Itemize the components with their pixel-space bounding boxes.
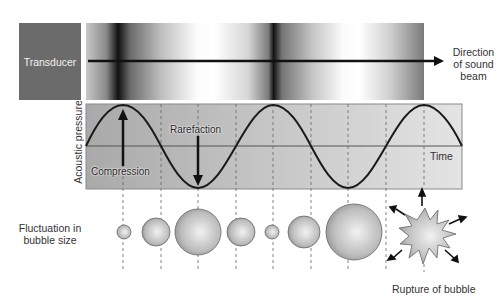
rupture-label: Rupture of bubble: [392, 283, 475, 295]
beam-direction-arrow: [88, 56, 444, 66]
bubble: [288, 216, 320, 248]
bubble: [326, 204, 382, 260]
bubble: [117, 225, 131, 239]
time-label: Time: [430, 150, 453, 162]
bubble: [265, 225, 279, 239]
bubble: [175, 209, 221, 255]
compression-label: Compression: [91, 166, 150, 178]
fluctuation-label: Fluctuation in bubble size: [10, 222, 90, 246]
bubble: [227, 218, 255, 246]
direction-label: Direction of sound beam: [446, 46, 501, 82]
bubbles: [117, 204, 382, 260]
bubble: [142, 218, 170, 246]
rarefaction-label: Rarefaction: [170, 124, 221, 136]
ruptured-bubble-icon: [399, 208, 456, 264]
y-axis-label: Acoustic pressure: [72, 92, 84, 192]
